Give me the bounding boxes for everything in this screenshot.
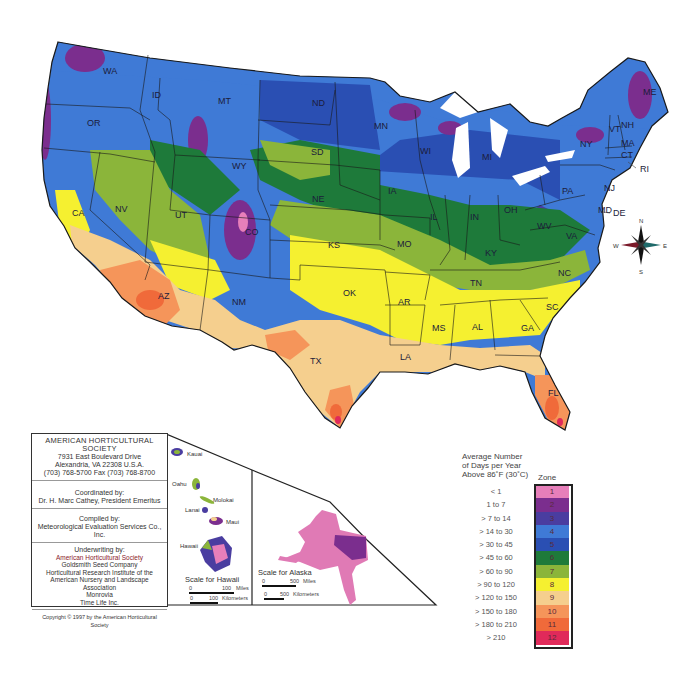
underwriter: American Nursery and Landscape Associati…	[34, 576, 165, 591]
hawaii-miles-zero: 0	[189, 585, 192, 591]
legend-range: > 210	[462, 633, 530, 642]
state-label-ri: RI	[640, 164, 649, 174]
alaska-miles-scale-bar	[262, 585, 296, 587]
underwriter: Monrovia	[34, 591, 165, 599]
state-label-ks: KS	[328, 240, 340, 250]
alaska-km-zero: 0	[264, 591, 267, 597]
oahu-label: Oahu	[172, 481, 187, 487]
state-label-pa: PA	[562, 186, 573, 196]
legend-swatch: 6	[535, 551, 569, 564]
sponsor-info-box: AMERICAN HORTICULTURAL SOCIETY 7931 East…	[31, 433, 168, 607]
state-label-tn: TN	[470, 278, 482, 288]
state-label-id: ID	[152, 90, 162, 100]
compass-rose-icon: N S E W	[613, 218, 667, 275]
state-label-wv: WV	[537, 221, 552, 231]
legend-swatch: 3	[535, 512, 569, 525]
phone-fax: (703) 768-5700 Fax (703) 768-8700	[34, 469, 165, 477]
state-label-vt: VT	[609, 124, 621, 134]
legend-range: > 150 to 180	[462, 607, 530, 616]
state-label-az: AZ	[158, 291, 170, 301]
state-label-ky: KY	[485, 248, 497, 258]
hawaii-miles-scale-bar	[189, 592, 234, 594]
state-label-wi: WI	[420, 146, 431, 156]
coordinated-label: Coordinated by:	[34, 489, 165, 497]
legend-rows: < 11 1 to 72 > 7 to 143 > 14 to 304 > 30…	[462, 485, 574, 645]
underwriter: Goldsmith Seed Company	[34, 561, 165, 569]
legend-row: > 180 to 21011	[462, 618, 574, 631]
legend-heading-line1: Average Number	[462, 452, 542, 461]
compass-west-label: W	[613, 243, 619, 249]
legend-range: > 180 to 210	[462, 620, 530, 629]
state-label-ar: AR	[398, 297, 411, 307]
state-label-ok: OK	[343, 288, 356, 298]
state-label-wy: WY	[232, 161, 247, 171]
state-label-ga: GA	[521, 323, 534, 333]
legend-row: > 60 to 907	[462, 565, 574, 578]
legend-row: > 120 to 1509	[462, 591, 574, 604]
lanai-label: Lanai	[185, 507, 200, 513]
state-label-nc: NC	[558, 268, 571, 278]
hawaii-miles-unit: Miles	[236, 585, 249, 591]
legend-swatch: 5	[535, 538, 569, 551]
legend-row: 1 to 72	[462, 498, 574, 511]
state-label-ne: NE	[312, 194, 325, 204]
coordinated-by: Dr. H. Marc Cathey, President Emeritus	[34, 497, 165, 505]
state-label-sc: SC	[546, 302, 559, 312]
legend-swatch: 10	[535, 605, 569, 618]
legend-range: > 90 to 120	[462, 580, 530, 589]
underwriter: Horticultural Research Institute of the	[34, 569, 165, 577]
hawaii-inset: Kauai Oahu Molokai Lanai Maui Hawaii Sca…	[171, 448, 249, 604]
state-label-oh: OH	[504, 205, 518, 215]
state-label-de: DE	[613, 208, 626, 218]
state-label-tx: TX	[310, 356, 322, 366]
alaska-km-end: 500	[280, 591, 289, 597]
state-label-va: VA	[566, 231, 577, 241]
legend-swatch: 9	[535, 591, 569, 604]
state-label-mo: MO	[397, 239, 412, 249]
state-label-md: MD	[598, 205, 612, 215]
state-label-ct: CT	[621, 150, 633, 160]
state-label-nv: NV	[115, 204, 128, 214]
legend-range: > 45 to 60	[462, 553, 530, 562]
state-label-mn: MN	[374, 121, 388, 131]
state-label-ny: NY	[580, 139, 593, 149]
compiled-section: Compiled by: Meteorological Evaluation S…	[32, 509, 167, 543]
legend-row: > 14 to 304	[462, 525, 574, 538]
kauai-label: Kauai	[187, 451, 202, 457]
coordinated-section: Coordinated by: Dr. H. Marc Cathey, Pres…	[32, 481, 167, 509]
state-label-or: OR	[87, 118, 101, 128]
copyright: Copyright © 1997 by the American Horticu…	[32, 610, 167, 632]
state-label-ia: IA	[388, 186, 397, 196]
legend-swatch: 1	[535, 485, 569, 498]
legend-row: > 45 to 606	[462, 551, 574, 564]
legend-heading-line3: Above 86˚F (30˚C)	[462, 470, 542, 479]
state-label-me: ME	[643, 87, 657, 97]
legend-swatch: 7	[535, 565, 569, 578]
compiled-by: Meteorological Evaluation Services Co., …	[34, 523, 165, 539]
state-label-la: LA	[400, 352, 411, 362]
address-line2: Alexandria, VA 22308 U.S.A.	[34, 461, 165, 469]
compass-east-label: E	[663, 243, 667, 249]
legend-range: > 30 to 45	[462, 540, 530, 549]
legend-swatch: 12	[535, 631, 569, 644]
legend-row: > 21012	[462, 631, 574, 644]
alaska-km-unit: Kilometers	[293, 591, 319, 597]
state-label-ut: UT	[175, 210, 187, 220]
compass-north-label: N	[639, 218, 643, 224]
state-label-mt: MT	[218, 96, 231, 106]
legend-swatch: 8	[535, 578, 569, 591]
state-label-nd: ND	[312, 98, 325, 108]
hawaii-km-zero: 0	[190, 595, 193, 601]
state-label-il: IL	[430, 212, 438, 222]
legend-range: > 120 to 150	[462, 593, 530, 602]
legend-row: > 90 to 1208	[462, 578, 574, 591]
molokai-label: Molokai	[213, 497, 234, 503]
underwriter: American Horticultural Society	[34, 554, 165, 562]
underwriter: Time Life Inc.	[34, 599, 165, 607]
hawaii-km-end: 100	[209, 595, 218, 601]
alaska-miles-end: 500	[290, 578, 299, 584]
state-label-mi: MI	[482, 152, 492, 162]
alaska-km-scale-bar	[264, 598, 284, 600]
state-label-nj: NJ	[604, 183, 615, 193]
compass-south-label: S	[639, 269, 643, 275]
